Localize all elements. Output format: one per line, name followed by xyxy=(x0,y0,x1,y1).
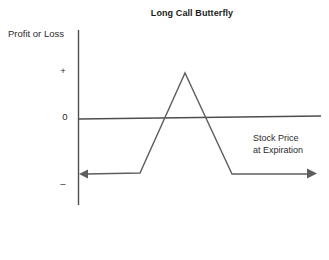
chart-page: Long Call Butterfly Profit or Loss Stock… xyxy=(0,0,329,260)
zero-reference-line xyxy=(78,116,321,119)
payoff-diagram-plot xyxy=(0,0,329,260)
right-arrowhead-icon xyxy=(307,169,317,179)
payoff-curve xyxy=(86,73,310,174)
left-arrowhead-icon xyxy=(79,170,88,179)
